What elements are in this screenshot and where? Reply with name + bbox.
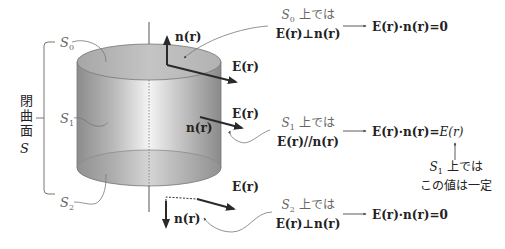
field-label-bottom: E(r) — [232, 180, 259, 194]
normal-label-top: n(r) — [175, 30, 201, 44]
normal-label-side: n(r) — [186, 121, 212, 135]
constant-note: S1 上では この値は一定 — [414, 160, 498, 194]
field-label-top: E(r) — [232, 60, 259, 74]
condition-s1: S1 上では E(r)//n(r) — [272, 116, 344, 150]
condition-s0: S0 上では E(r)⊥n(r) — [272, 8, 344, 42]
field-label-side: E(r) — [232, 107, 259, 121]
closed-surface-bracket — [44, 42, 55, 194]
normal-label-bottom: n(r) — [174, 212, 200, 226]
surface-label-s1: S1 — [60, 112, 74, 131]
result-s0: E(r)·n(r)=0 — [372, 20, 448, 34]
closed-surface-label: 閉曲面 — [18, 94, 32, 139]
cylinder-top-face — [77, 44, 221, 80]
surface-label-s2: S2 — [60, 196, 74, 215]
surface-label-s0: S0 — [60, 36, 74, 55]
result-s1: E(r)·n(r)=E(r) — [372, 125, 463, 139]
closed-surface-symbol: S — [20, 142, 29, 156]
field-vector-bottom — [197, 199, 234, 209]
condition-s2: S2 上では E(r)⊥n(r) — [272, 198, 344, 232]
result-s2: E(r)·n(r)=0 — [372, 208, 448, 222]
